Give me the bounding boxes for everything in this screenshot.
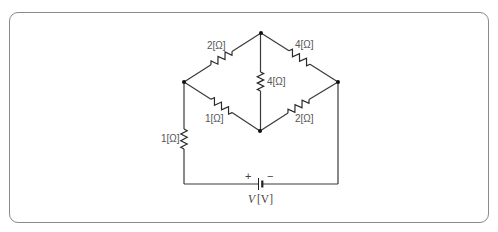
resistor-top-left — [209, 49, 234, 68]
node-left — [182, 80, 186, 84]
source-voltage-unit: [V] — [257, 193, 273, 205]
label-r-top-left: 2[Ω] — [207, 40, 226, 51]
node-right — [336, 80, 340, 84]
label-r-series: 1[Ω] — [161, 133, 180, 144]
label-r-middle: 4[Ω] — [267, 76, 286, 87]
source-voltage-label: V[V] — [248, 193, 273, 205]
resistor-top-right — [287, 48, 312, 67]
resistor-series-left — [181, 129, 187, 149]
source-voltage-symbol: V — [248, 193, 257, 205]
resistor-middle — [257, 72, 263, 91]
label-r-bottom-right: 2[Ω] — [295, 113, 314, 124]
battery-plus-sign: + — [245, 170, 251, 182]
node-bottom — [258, 129, 262, 133]
wires — [184, 33, 338, 184]
battery-minus-sign: − — [267, 170, 273, 182]
label-r-top-right: 4[Ω] — [295, 39, 314, 50]
circuit-diagram: 2[Ω] 4[Ω] 4[Ω] 1[Ω] 2[Ω] 1[Ω] + − V[V] — [0, 0, 498, 232]
node-top — [259, 31, 263, 35]
label-r-bottom-left: 1[Ω] — [205, 113, 224, 124]
battery-icon — [259, 178, 263, 190]
